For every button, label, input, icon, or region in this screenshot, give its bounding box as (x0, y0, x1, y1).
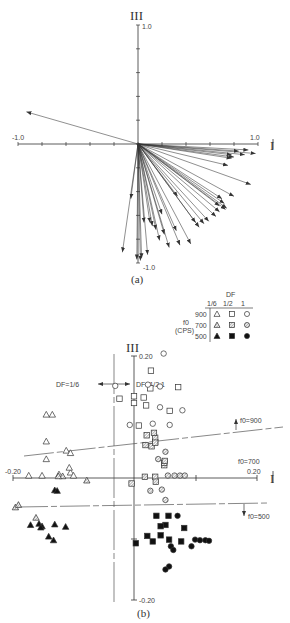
circle-marker (189, 544, 194, 549)
square-marker (166, 537, 171, 542)
panel-b: DF 1/6 1/2 1 f0 (CPS) 900 700 500 III 0.… (5, 291, 283, 620)
triangle-marker (45, 533, 51, 539)
legend-col-3: 1 (241, 300, 245, 307)
triangle-marker (33, 514, 39, 520)
legend-cps-label: (CPS) (175, 327, 194, 335)
panel-b-y-max-label: 0.20 (139, 353, 153, 360)
legend-row-1: 900 (195, 311, 207, 318)
square-marker (131, 394, 136, 399)
circle-marker (159, 487, 164, 492)
legend-row-2: 700 (195, 322, 207, 329)
legend-f0-label: f0 (183, 319, 189, 326)
vector (138, 144, 248, 150)
square-marker (143, 403, 148, 408)
square-marker (133, 541, 138, 546)
square-marker (229, 333, 234, 338)
square-marker (143, 442, 148, 447)
panel-a-x-min-label: -1.0 (12, 134, 24, 141)
circle-marker (206, 538, 211, 543)
square-marker (154, 513, 159, 518)
square-marker (153, 479, 158, 484)
legend-df-title: DF (226, 291, 235, 298)
legend-markers (214, 311, 250, 339)
figure: III 1.0 -1.0 1.0 I -1.0 (a) DF 1/6 1/2 1… (0, 0, 290, 623)
circle-marker (182, 473, 187, 478)
panel-b-x-max-label: 0.20 (247, 468, 261, 475)
vector (138, 144, 162, 214)
circle-marker (167, 422, 172, 427)
circle-marker (163, 497, 168, 502)
vector (138, 144, 209, 221)
circle-marker (150, 421, 155, 426)
square-marker (229, 322, 234, 327)
panel-a-y-axis-label: III (130, 8, 143, 23)
f0-500-boundary-line (18, 503, 268, 507)
circle-marker (157, 384, 162, 389)
vector (26, 112, 138, 144)
square-marker (162, 458, 167, 463)
vector (138, 144, 191, 244)
df-left-label: DF=1/6 (56, 381, 79, 388)
square-marker (175, 384, 180, 389)
circle-marker (244, 311, 249, 316)
square-marker (158, 533, 163, 538)
circle-marker (165, 473, 170, 478)
vector (122, 144, 138, 252)
panel-b-caption: (b) (137, 607, 150, 620)
panel-a-x-axis-label: I (270, 138, 274, 153)
circle-marker (244, 333, 249, 338)
legend-row-3: 500 (195, 333, 207, 340)
circle-marker (157, 405, 162, 410)
triangle-marker (52, 521, 58, 527)
triangle-marker (49, 411, 55, 417)
f0-700-label: f0=700 (238, 458, 260, 465)
triangle-marker (43, 438, 49, 444)
triangle-marker (214, 333, 220, 338)
panel-b-y-min-label: -0.20 (139, 597, 155, 604)
circle-marker (145, 382, 150, 387)
legend-col-1: 1/6 (207, 300, 217, 307)
square-marker (117, 396, 122, 401)
circle-marker (175, 513, 180, 518)
circle-marker (127, 422, 132, 427)
square-marker (158, 523, 163, 528)
triangle-marker (27, 522, 33, 528)
triangle-marker (214, 311, 220, 316)
legend-col-2: 1/2 (223, 300, 233, 307)
square-marker (167, 408, 172, 413)
square-marker (142, 474, 147, 479)
triangle-marker (66, 464, 72, 470)
circle-marker (163, 567, 168, 572)
panel-b-x-axis-label: I (270, 471, 274, 486)
circle-marker (155, 456, 160, 461)
panel-a-x-max-label: 1.0 (250, 134, 260, 141)
square-marker (229, 311, 234, 316)
circle-marker (172, 473, 177, 478)
square-marker (148, 368, 153, 373)
square-marker (178, 539, 183, 544)
square-marker (166, 513, 171, 518)
panel-a-vectors (26, 112, 255, 261)
square-marker (145, 533, 150, 538)
triangle-marker (26, 472, 32, 478)
triangle-marker (62, 524, 68, 530)
circle-marker (161, 351, 166, 356)
triangle-marker (63, 447, 69, 453)
triangle-marker (15, 502, 21, 508)
square-marker (152, 440, 157, 445)
circle-marker (163, 449, 168, 454)
circle-marker (148, 488, 153, 493)
triangle-marker (214, 322, 220, 327)
triangle-marker (43, 456, 49, 462)
square-marker (129, 481, 134, 486)
circle-marker (244, 322, 249, 327)
f0-500-label: f0=500 (248, 513, 270, 520)
square-marker (181, 525, 186, 530)
f0-900-label: f0=900 (240, 417, 262, 424)
square-marker (151, 430, 156, 435)
panel-a: III 1.0 -1.0 1.0 I -1.0 (a) (12, 8, 274, 286)
circle-marker (171, 547, 176, 552)
square-marker (131, 400, 136, 405)
square-marker (150, 539, 155, 544)
panel-b-x-min-label: -0.20 (5, 468, 21, 475)
